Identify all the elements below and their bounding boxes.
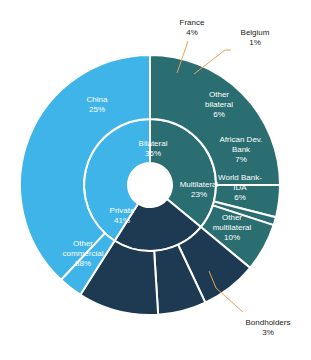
outer-ring-label-belgium: Belgium1%	[241, 28, 270, 47]
chart-canvas: Bilateral36%Multilateral23%Private41%Chi…	[0, 0, 311, 360]
outer-ring-label-bondholders: Bondholders3%	[246, 318, 291, 337]
nested-donut-chart: Bilateral36%Multilateral23%Private41%Chi…	[0, 0, 311, 360]
outer-ring-label-china: China25%	[87, 95, 108, 114]
outer-ring-label-france: France4%	[180, 18, 205, 37]
